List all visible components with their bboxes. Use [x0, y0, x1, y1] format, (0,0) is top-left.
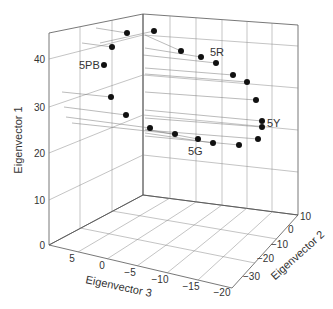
z-tick: 20: [34, 148, 46, 159]
annotation-5r: 5R: [210, 46, 224, 58]
projection-lines: [62, 28, 262, 145]
annotation-5y: 5Y: [267, 117, 281, 129]
y-tick: 10: [300, 211, 312, 222]
x-axis-label: Eigenvector 3: [85, 273, 153, 299]
y-axis-label: Eigenvector 2: [268, 228, 326, 282]
y-tick: 0: [288, 224, 294, 235]
3d-scatter-chart: 5PB 5R 5Y 5G 0 10 20 30 40 Eigenvector 1…: [0, 0, 333, 309]
z-tick: 10: [34, 195, 46, 206]
z-axis-ticks: 0 10 20 30 40: [34, 54, 46, 251]
x-tick: −20: [214, 287, 231, 298]
y-tick: −30: [243, 271, 260, 282]
annotation-5pb: 5PB: [79, 59, 100, 71]
annotations: 5PB 5R 5Y 5G: [79, 46, 281, 157]
data-points: [101, 28, 265, 148]
x-tick: −10: [152, 274, 169, 285]
z-tick: 40: [34, 54, 46, 65]
z-axis-label: Eigenvector 1: [12, 106, 24, 173]
annotation-5g: 5G: [188, 145, 203, 157]
x-tick: −15: [183, 281, 200, 292]
grid-lines: [49, 16, 298, 280]
y-tick: −20: [257, 253, 274, 264]
x-tick: 5: [69, 253, 75, 264]
chart-canvas: 5PB 5R 5Y 5G 0 10 20 30 40 Eigenvector 1…: [0, 0, 333, 309]
z-tick: 30: [34, 102, 46, 113]
z-tick: 0: [39, 240, 45, 251]
y-tick: −10: [271, 239, 288, 250]
x-tick: 0: [99, 260, 105, 271]
x-tick: −5: [124, 267, 136, 278]
